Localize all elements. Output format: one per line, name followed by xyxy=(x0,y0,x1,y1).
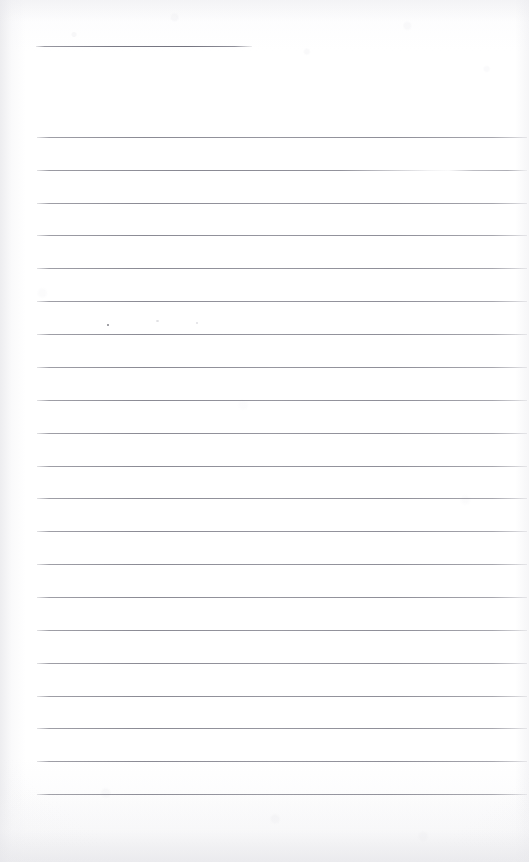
paper-background xyxy=(0,0,529,862)
scanned-page xyxy=(0,0,529,862)
